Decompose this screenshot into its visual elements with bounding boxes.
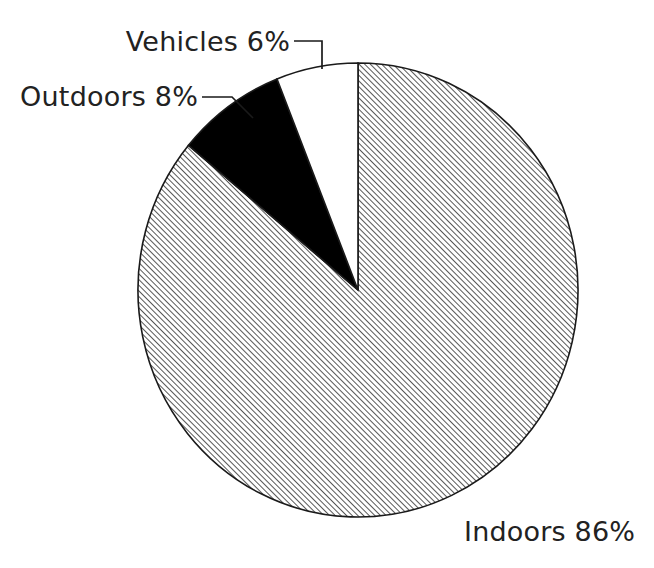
pie-chart-figure: Vehicles 6% Outdoors 8% Indoors 86% bbox=[0, 0, 654, 568]
pie-slices bbox=[138, 63, 578, 517]
slice-label-vehicles: Vehicles 6% bbox=[126, 26, 290, 57]
slice-label-indoors: Indoors 86% bbox=[464, 516, 635, 547]
pie-chart-canvas: Vehicles 6% Outdoors 8% Indoors 86% bbox=[0, 0, 654, 568]
slice-label-outdoors: Outdoors 8% bbox=[20, 81, 198, 112]
